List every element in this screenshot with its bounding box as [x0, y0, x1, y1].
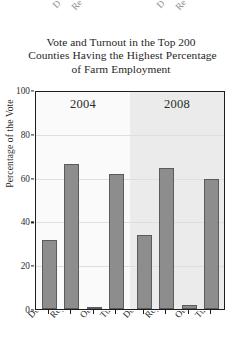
clipped-label-remnant: D	[155, 0, 167, 10]
y-tick-mark	[31, 134, 35, 135]
y-tick-mark	[31, 222, 35, 223]
gridline-80	[36, 135, 224, 136]
y-tick-label: 60	[4, 174, 30, 184]
plot-area: 2004 2008	[35, 91, 225, 310]
y-tick-mark	[31, 266, 35, 267]
y-axis-ticks: 100 80 60 40 20 0	[3, 91, 30, 310]
chart-title: Vote and Turnout in the Top 200 Counties…	[0, 36, 242, 76]
bar-2008-republican	[159, 168, 174, 309]
bar-2004-other	[87, 307, 102, 309]
y-tick-mark	[31, 90, 35, 91]
chart-title-line-3: of Farm Employment	[0, 63, 242, 76]
clipped-label-remnant: Re	[174, 0, 189, 12]
bar-2008-other	[182, 305, 197, 309]
bar-2008-democrat	[137, 235, 152, 309]
bar-2008-turnout	[204, 179, 219, 309]
y-tick-label: 40	[4, 217, 30, 227]
x-label-2008-turnout: Turnout	[193, 311, 221, 320]
x-axis-labels: Democrat Republican Other Turnout Democr…	[0, 311, 242, 341]
x-label-2008-other: Other	[173, 311, 195, 320]
y-tick-label: 20	[4, 261, 30, 271]
panel-label-2004: 2004	[36, 97, 130, 112]
y-tick-label: 80	[4, 130, 30, 140]
clipped-labels-from-chart-above: D Re D Re	[0, 0, 242, 26]
chart-title-line-1: Vote and Turnout in the Top 200	[0, 36, 242, 49]
clipped-label-remnant: Re	[70, 0, 85, 12]
clipped-label-remnant: D	[51, 0, 63, 10]
y-tick-label: 100	[4, 86, 30, 96]
bar-2004-turnout	[109, 174, 124, 309]
bar-2004-democrat	[42, 240, 57, 309]
chart-title-line-2: Counties Having the Highest Percentage	[3, 49, 242, 62]
y-tick-mark	[31, 178, 35, 179]
panel-label-2008: 2008	[130, 97, 224, 112]
x-label-2004-other: Other	[78, 311, 100, 320]
bar-2004-republican	[64, 164, 79, 309]
